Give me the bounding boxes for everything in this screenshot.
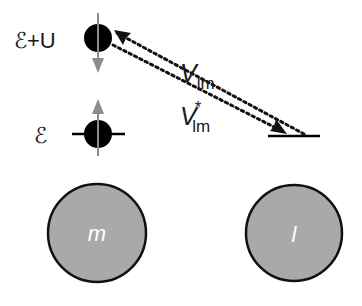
lower-level-label: ℰ <box>34 123 47 148</box>
lower-level: ℰ <box>34 99 125 156</box>
hopping-subscript: lm <box>192 117 210 136</box>
hopping-superscript: * <box>195 98 202 117</box>
site-l: l <box>246 185 342 281</box>
upper-level-label: ℰ+U <box>14 28 56 53</box>
upper-level: ℰ+U <box>14 13 112 73</box>
impurity-hopping-diagram: ℰ+U ℰ Vlm V*lm m l <box>0 0 362 306</box>
hopping-subscript: lm <box>197 74 215 93</box>
site-m-label: m <box>88 221 106 246</box>
site-m: m <box>48 184 146 282</box>
hopping-label-forward: Vlm <box>180 59 215 93</box>
hopping-label-backward: V*lm <box>180 98 210 136</box>
